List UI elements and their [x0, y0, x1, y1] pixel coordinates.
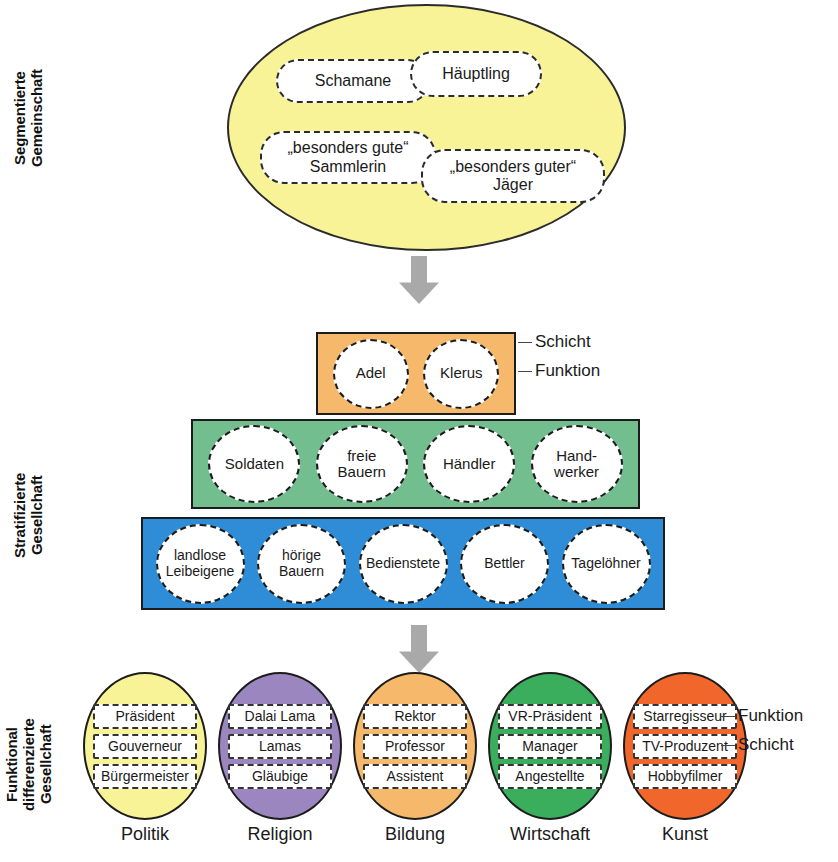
system-slot: Lamas	[228, 734, 332, 759]
leader-line-icon	[721, 716, 735, 717]
down-arrow-icon	[399, 256, 439, 304]
callout-label: Schicht	[738, 735, 794, 754]
role-circle-klerus: Klerus	[423, 339, 499, 409]
role-bubble-sammlerin: „besonders gute“ Sammlerin	[260, 131, 436, 184]
role-circle-freie-bauern: freie Bauern	[316, 425, 408, 503]
system-slot: Angestellte	[498, 764, 602, 789]
side-label-functionally-differentiated-society: Funktional differenzierte Gesellchaft	[4, 672, 54, 857]
role-circle-soldaten: Soldaten	[208, 425, 300, 503]
system-slot: Bürgermeister	[93, 764, 197, 789]
system-name-label: Politik	[83, 824, 207, 845]
functional-systems-row: Präsident Gouverneur Bürgermeister Polit…	[83, 672, 748, 860]
role-bubble-haeuptling: Häuptling	[410, 51, 542, 97]
callout-label: Funktion	[535, 361, 600, 380]
system-wirtschaft: VR-Präsident Manager Angestellte Wirtsch…	[488, 672, 612, 824]
system-slot: VR-Präsident	[498, 704, 602, 729]
system-circle: Dalai Lama Lamas Gläubige	[218, 672, 342, 820]
system-slot: Hobbyfilmer	[633, 764, 737, 789]
leader-line-icon	[721, 745, 735, 746]
system-circle: Rektor Professor Assistent	[353, 672, 477, 820]
callout-label: Funktion	[738, 706, 803, 725]
role-bubble-jaeger: „besonders guter“ Jäger	[421, 149, 605, 203]
down-arrow-icon	[399, 625, 439, 673]
role-circle-handwerker: Hand- werker	[531, 425, 623, 503]
role-circle-hoerige-bauern: hörige Bauern	[257, 524, 346, 604]
system-circle: Präsident Gouverneur Bürgermeister	[83, 672, 207, 820]
role-bubble-schamane: Schamane	[276, 59, 430, 103]
system-name-label: Religion	[218, 824, 342, 845]
side-label-stratified-society: Stratifizierte Gesellchaft	[12, 408, 46, 623]
diagram-canvas: Segmentierte Gemeinschaft Stratifizierte…	[0, 0, 838, 862]
system-slot: Gläubige	[228, 764, 332, 789]
callout-funktion-lower: Funktion	[721, 706, 803, 726]
role-circle-bedienstete: Bedienstete	[359, 524, 448, 604]
callout-funktion-upper: Funktion	[518, 361, 600, 381]
side-label-segmented-community: Segmentierte Gemeinschaft	[12, 18, 46, 218]
system-name-label: Kunst	[623, 824, 747, 845]
callout-schicht-upper: Schicht	[518, 332, 591, 352]
system-bildung: Rektor Professor Assistent Bildung	[353, 672, 477, 824]
system-slot: Gouverneur	[93, 734, 197, 759]
system-circle: VR-Präsident Manager Angestellte	[488, 672, 612, 820]
system-slot: Assistent	[363, 764, 467, 789]
segmented-community-ellipse: Schamane Häuptling „besonders gute“ Samm…	[227, 4, 626, 251]
callout-label: Schicht	[535, 332, 591, 351]
stratified-layer-nobility: Adel Klerus	[316, 332, 516, 415]
system-slot: Professor	[363, 734, 467, 759]
stratified-layer-lower: landlose Leibeigene hörige Bauern Bedien…	[141, 517, 665, 610]
callout-schicht-lower: Schicht	[721, 735, 794, 755]
role-circle-landlose-leibeigene: landlose Leibeigene	[156, 524, 245, 604]
role-circle-tageloehner: Tagelöhner	[562, 524, 651, 604]
system-slot: Rektor	[363, 704, 467, 729]
system-slot: Präsident	[93, 704, 197, 729]
system-religion: Dalai Lama Lamas Gläubige Religion	[218, 672, 342, 824]
leader-line-icon	[518, 371, 532, 372]
role-circle-adel: Adel	[333, 339, 409, 409]
role-circle-haendler: Händler	[423, 425, 515, 503]
leader-line-icon	[518, 342, 532, 343]
system-slot: Manager	[498, 734, 602, 759]
stratified-layer-middle: Soldaten freie Bauern Händler Hand- werk…	[191, 419, 640, 509]
system-name-label: Wirtschaft	[488, 824, 612, 845]
role-circle-bettler: Bettler	[460, 524, 549, 604]
system-politik: Präsident Gouverneur Bürgermeister Polit…	[83, 672, 207, 824]
system-name-label: Bildung	[353, 824, 477, 845]
system-slot: Dalai Lama	[228, 704, 332, 729]
